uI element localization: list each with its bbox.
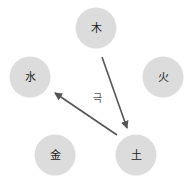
- arrow-wood-to-earth: [102, 57, 127, 128]
- node-water: 水: [10, 57, 51, 98]
- node-wood: 木: [76, 8, 117, 49]
- five-elements-diagram: 木 火 水 金 土 극: [0, 0, 194, 189]
- node-water-label: 水: [25, 71, 36, 84]
- node-fire-label: 火: [158, 71, 169, 84]
- node-fire: 火: [143, 57, 184, 98]
- node-wood-label: 木: [91, 22, 102, 35]
- node-metal-label: 金: [50, 148, 61, 162]
- arrow-earth-to-water: [55, 93, 117, 135]
- node-metal: 金: [35, 135, 76, 176]
- node-earth: 土: [116, 135, 157, 176]
- node-earth-label: 土: [131, 149, 142, 162]
- relation-label: 극: [93, 93, 102, 104]
